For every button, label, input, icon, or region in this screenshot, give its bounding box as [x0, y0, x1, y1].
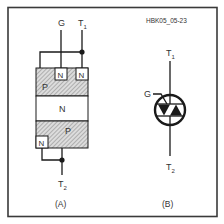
layer-bottom-p-label: P: [65, 126, 71, 136]
layer-bottom-n-label: N: [39, 139, 45, 148]
panel-a-t1-junction-dot: [79, 49, 84, 54]
layer-top-n-gate-label: N: [58, 71, 64, 80]
panel-a-gate-label: G: [58, 18, 65, 28]
panel-a-caption: (A): [55, 199, 67, 209]
layer-top-n-t1-label: N: [79, 71, 85, 80]
panel-a-t2-junction-dot: [59, 157, 64, 162]
panel-b-gate-label: G: [144, 89, 151, 99]
layer-top-p-label: P: [42, 82, 48, 92]
triac-figure: HBK05_05-23 G T1 P N N N P N T2 (A): [0, 0, 224, 224]
layer-middle-n-label: N: [59, 104, 66, 114]
panel-b-caption: (B): [162, 199, 174, 209]
figure-id-label: HBK05_05-23: [146, 17, 187, 25]
